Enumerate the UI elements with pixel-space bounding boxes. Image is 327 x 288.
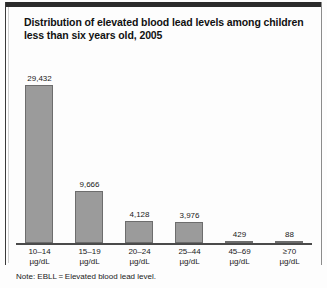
x-axis-label-unit: µg/dL bbox=[66, 257, 113, 267]
bar-slot: 88 bbox=[266, 62, 313, 243]
x-axis-label-range: ≥70 bbox=[266, 247, 313, 257]
x-axis-labels: 10–14µg/dL15–19µg/dL20–24µg/dL25–44µg/dL… bbox=[16, 247, 316, 271]
x-axis-line bbox=[16, 243, 312, 245]
bar[interactable] bbox=[75, 191, 103, 243]
bar-slot: 29,432 bbox=[16, 62, 63, 243]
bar-slot: 9,666 bbox=[66, 62, 113, 243]
x-axis-label: 10–14µg/dL bbox=[16, 247, 63, 266]
plot-area: 29,4329,6664,1283,97642988 bbox=[16, 60, 316, 245]
x-axis-label-unit: µg/dL bbox=[116, 257, 163, 267]
frame-top-border bbox=[5, 2, 322, 7]
bar[interactable] bbox=[175, 222, 203, 243]
x-axis-label-unit: µg/dL bbox=[166, 257, 213, 267]
chart-title-line-2: less than six years old, 2005 bbox=[24, 29, 304, 42]
x-axis-label-range: 10–14 bbox=[16, 247, 63, 257]
x-axis-label-range: 25–44 bbox=[166, 247, 213, 257]
frame-right-border bbox=[321, 2, 322, 265]
bar[interactable] bbox=[275, 241, 303, 243]
bar-value-label: 88 bbox=[266, 230, 313, 239]
bar-value-label: 429 bbox=[216, 230, 263, 239]
bar-slot: 4,128 bbox=[116, 62, 163, 243]
x-axis-label-range: 45–69 bbox=[216, 247, 263, 257]
x-axis-label-range: 20–24 bbox=[116, 247, 163, 257]
x-axis-label: ≥70µg/dL bbox=[266, 247, 313, 266]
x-axis-label: 20–24µg/dL bbox=[116, 247, 163, 266]
bar[interactable] bbox=[225, 241, 253, 243]
bar-value-label: 9,666 bbox=[66, 180, 113, 189]
x-axis-label-range: 15–19 bbox=[66, 247, 113, 257]
x-axis-label-unit: µg/dL bbox=[216, 257, 263, 267]
bar-value-label: 4,128 bbox=[116, 210, 163, 219]
frame-left-border bbox=[5, 2, 6, 265]
chart-note: Note: EBLL = Elevated blood lead level. bbox=[16, 272, 156, 282]
x-axis-label: 45–69µg/dL bbox=[216, 247, 263, 266]
figure-container: Distribution of elevated blood lead leve… bbox=[0, 0, 327, 288]
x-axis-label: 15–19µg/dL bbox=[66, 247, 113, 266]
chart-title: Distribution of elevated blood lead leve… bbox=[24, 16, 304, 42]
bar-value-label: 29,432 bbox=[16, 74, 63, 83]
x-axis-label: 25–44µg/dL bbox=[166, 247, 213, 266]
frame-inner-left-rule bbox=[8, 7, 9, 263]
bar-value-label: 3,976 bbox=[166, 211, 213, 220]
bar[interactable] bbox=[25, 85, 53, 243]
x-axis-label-unit: µg/dL bbox=[266, 257, 313, 267]
bar-slot: 429 bbox=[216, 62, 263, 243]
bar-slot: 3,976 bbox=[166, 62, 213, 243]
chart-title-line-1: Distribution of elevated blood lead leve… bbox=[24, 16, 304, 29]
x-axis-label-unit: µg/dL bbox=[16, 257, 63, 267]
bar[interactable] bbox=[125, 221, 153, 243]
